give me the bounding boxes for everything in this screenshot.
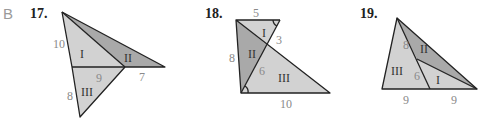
fig17-side-7: 7 (139, 70, 145, 84)
fig19-label-III: III (391, 64, 403, 78)
fig17-label-III: III (81, 85, 93, 99)
fig19-label-II: II (420, 42, 428, 56)
fig18-label-II: II (248, 47, 256, 61)
fig19-label-I: I (436, 73, 440, 87)
figure-18: I II III 5 3 8 6 10 (229, 6, 330, 111)
fig18-side-6: 6 (259, 64, 265, 78)
fig18-label-I: I (262, 26, 266, 40)
fig18-label-III: III (278, 71, 290, 85)
fig19-side-8: 8 (403, 38, 409, 52)
fig17-side-8: 8 (67, 89, 73, 103)
fig18-side-10: 10 (280, 97, 292, 111)
fig17-side-9: 9 (96, 71, 102, 85)
figure-17: I II III 10 9 7 8 (53, 12, 165, 117)
fig17-label-I: I (80, 47, 84, 61)
fig19-side-9-left: 9 (403, 93, 409, 107)
fig18-side-8: 8 (229, 51, 235, 65)
fig17-side-10: 10 (53, 37, 65, 51)
fig17-label-II: II (124, 51, 132, 65)
figures-canvas: I II III 10 9 7 8 I II III 5 3 8 6 10 II… (0, 0, 490, 124)
fig18-side-3: 3 (276, 33, 282, 47)
fig19-side-6: 6 (414, 69, 420, 83)
fig18-side-5: 5 (253, 6, 259, 20)
fig19-side-9-right: 9 (451, 93, 457, 107)
figure-19: II III I 8 6 9 9 (382, 18, 477, 107)
